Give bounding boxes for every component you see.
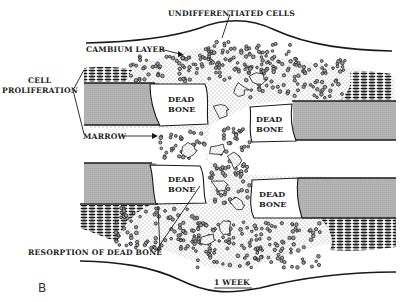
cell	[290, 248, 293, 251]
cell	[178, 72, 181, 75]
cell	[182, 239, 185, 242]
cell	[222, 236, 225, 239]
cell	[232, 242, 235, 245]
cell	[296, 266, 300, 270]
marrow-arrowhead-icon	[152, 133, 158, 139]
cell	[117, 233, 120, 236]
cell	[221, 64, 224, 67]
cell	[337, 82, 341, 86]
cell	[239, 228, 243, 232]
cell	[218, 240, 221, 243]
dead-bone-label: DEAD	[256, 114, 282, 124]
cell	[179, 135, 182, 138]
cell	[181, 229, 185, 233]
cell	[316, 96, 319, 99]
cell	[129, 64, 132, 67]
bracket-cell-proliferation	[73, 70, 84, 134]
cell	[222, 133, 226, 137]
cell	[249, 96, 252, 99]
cell	[118, 244, 121, 247]
cell	[222, 137, 225, 140]
cell	[154, 222, 157, 225]
cell	[168, 55, 171, 58]
cell	[272, 70, 276, 74]
cell	[159, 136, 163, 140]
cell	[213, 251, 216, 254]
cell	[194, 250, 197, 253]
cell	[207, 58, 210, 61]
cell	[310, 265, 313, 268]
cell	[227, 241, 230, 244]
cell	[308, 68, 311, 71]
cell	[233, 68, 237, 72]
cell	[267, 256, 270, 259]
cell	[218, 71, 221, 74]
cell	[255, 234, 258, 237]
cell	[187, 69, 190, 72]
cell	[168, 216, 172, 220]
cell	[115, 221, 118, 224]
cell	[257, 259, 260, 262]
cell	[318, 231, 321, 234]
cell	[234, 133, 238, 137]
cell	[222, 263, 225, 266]
cell	[210, 50, 213, 53]
cell	[210, 171, 214, 175]
cell	[194, 240, 197, 243]
cell	[332, 67, 335, 70]
cell	[224, 58, 227, 61]
cell	[188, 66, 192, 70]
label-resorption-of-dead-bone: RESORPTION OF DEAD BONE	[28, 248, 162, 257]
cell	[124, 214, 128, 218]
cell	[298, 229, 301, 232]
cell	[253, 256, 256, 259]
cell	[237, 190, 240, 193]
cell	[245, 47, 249, 51]
cell	[321, 88, 324, 91]
cell	[289, 59, 293, 63]
cell	[248, 141, 251, 144]
cell	[245, 254, 248, 257]
cell	[129, 74, 132, 77]
cell	[196, 67, 199, 70]
cell	[325, 64, 328, 67]
cell	[287, 50, 290, 53]
cell	[302, 65, 306, 69]
cell	[247, 262, 250, 265]
cell	[247, 145, 250, 148]
cell	[282, 83, 285, 86]
cell	[181, 56, 185, 60]
cell	[274, 242, 277, 245]
cell	[248, 244, 251, 247]
cell	[192, 247, 195, 250]
cell	[125, 244, 128, 247]
cell	[147, 73, 150, 76]
cell	[292, 243, 296, 247]
cell	[228, 77, 231, 80]
cell	[164, 209, 167, 212]
cell	[132, 212, 135, 215]
cell	[134, 79, 138, 83]
label-undifferentiated-cells: UNDIFFERENTIATED CELLS	[168, 9, 295, 18]
cell	[236, 62, 239, 65]
cell	[318, 222, 322, 226]
cell	[337, 60, 341, 64]
cell	[246, 226, 249, 229]
cell	[329, 89, 333, 93]
cell	[224, 240, 227, 243]
cell	[178, 78, 181, 81]
cell	[334, 79, 337, 82]
cell	[248, 241, 251, 244]
cell	[336, 65, 339, 68]
cell	[223, 44, 226, 47]
cell	[295, 61, 298, 64]
cell	[180, 245, 183, 248]
dead-bone-label: BONE	[259, 199, 286, 209]
cell	[273, 55, 276, 58]
cell	[274, 42, 277, 45]
cell	[193, 131, 196, 134]
label-proliferation: PROLIFERATION	[2, 86, 78, 95]
cell	[294, 227, 297, 230]
cell	[302, 261, 305, 264]
cell	[208, 55, 211, 58]
